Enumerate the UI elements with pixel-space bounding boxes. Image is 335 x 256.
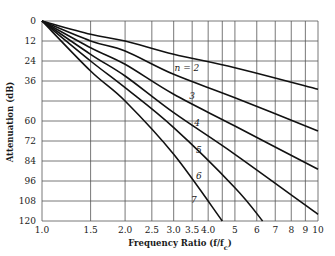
x-tick-label: 3.5 bbox=[185, 225, 200, 235]
curve-label: n = 2 bbox=[175, 63, 200, 73]
curve-label: 7 bbox=[191, 195, 197, 205]
curve-n4 bbox=[42, 21, 318, 169]
y-tick-label: 60 bbox=[25, 116, 37, 126]
x-tick-label: 6 bbox=[254, 225, 260, 235]
curve-n5 bbox=[42, 21, 318, 214]
curve-label: 4 bbox=[193, 118, 200, 128]
curve-label: 6 bbox=[196, 171, 202, 181]
curve-n3 bbox=[42, 21, 318, 131]
x-tick-label: 10 bbox=[312, 225, 324, 235]
x-tick-label: 1.5 bbox=[83, 225, 98, 235]
y-axis-label: Attenuation (dB) bbox=[5, 82, 15, 164]
attenuation-chart: n = 234567 012243660728496108120 1.01.52… bbox=[0, 0, 335, 256]
y-tick-label: 96 bbox=[25, 176, 37, 186]
y-tick-label: 24 bbox=[25, 56, 37, 66]
curve-label: 5 bbox=[196, 145, 202, 155]
y-tick-label: 72 bbox=[25, 136, 36, 146]
grid-lines bbox=[42, 21, 318, 221]
x-tick-label: 8 bbox=[288, 225, 294, 235]
y-tick-label: 84 bbox=[25, 156, 37, 166]
curve-label: 3 bbox=[189, 91, 195, 101]
x-tick-label: 2.0 bbox=[118, 225, 133, 235]
x-tick-label: 1.0 bbox=[35, 225, 50, 235]
x-tick-label: 4.0 bbox=[201, 225, 216, 235]
y-tick-label: 12 bbox=[25, 36, 36, 46]
y-axis-ticks: 012243660728496108120 bbox=[19, 16, 36, 226]
y-tick-label: 120 bbox=[19, 216, 36, 226]
x-tick-label: 3.0 bbox=[167, 225, 182, 235]
x-tick-label: 9 bbox=[303, 225, 309, 235]
y-tick-label: 108 bbox=[19, 196, 36, 206]
x-tick-label: 5 bbox=[232, 225, 238, 235]
x-axis-label: Frequency Ratio (f/fc) bbox=[128, 238, 232, 252]
x-tick-label: 7 bbox=[272, 225, 278, 235]
y-tick-label: 0 bbox=[30, 16, 36, 26]
x-tick-label: 2.5 bbox=[145, 225, 160, 235]
y-tick-label: 36 bbox=[25, 76, 37, 86]
x-axis-ticks: 1.01.52.02.53.03.54.05678910 bbox=[35, 225, 324, 235]
